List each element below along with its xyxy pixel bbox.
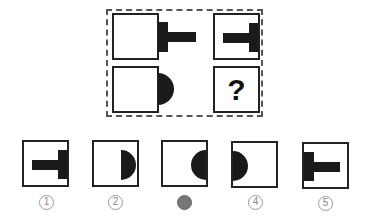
option-1-label[interactable]: 1 bbox=[39, 195, 54, 210]
t-bar-horizontal-shape bbox=[314, 162, 340, 172]
semicircle-shape bbox=[189, 150, 206, 180]
option-5-label[interactable]: 5 bbox=[318, 196, 333, 211]
option-2-label[interactable]: 2 bbox=[108, 195, 123, 210]
t-bar-vertical-shape bbox=[158, 22, 168, 52]
t-bar-horizontal-shape bbox=[32, 160, 58, 170]
option-2-figure[interactable] bbox=[92, 140, 139, 187]
question-mark: ? bbox=[215, 73, 258, 107]
option-3-figure[interactable] bbox=[161, 140, 208, 187]
half-circle-shape bbox=[158, 73, 174, 105]
option-4-figure[interactable] bbox=[231, 141, 278, 188]
t-bar-vertical-shape bbox=[58, 150, 67, 179]
puzzle-cell-top-left bbox=[112, 13, 159, 60]
half-circle-shape bbox=[121, 150, 137, 180]
puzzle-cell-bottom-left bbox=[112, 66, 159, 113]
option-5-figure[interactable] bbox=[302, 142, 349, 189]
puzzle-cell-top-right bbox=[213, 13, 260, 60]
puzzle-cell-question: ? bbox=[213, 66, 260, 113]
option-3-label[interactable]: 3 bbox=[177, 195, 192, 210]
option-4-label[interactable]: 4 bbox=[248, 195, 263, 210]
t-bar-horizontal-shape bbox=[223, 33, 249, 43]
option-1-figure[interactable] bbox=[22, 140, 69, 187]
half-circle-shape bbox=[233, 151, 249, 181]
t-bar-vertical-shape bbox=[304, 152, 314, 181]
t-bar-vertical-shape bbox=[249, 23, 258, 52]
t-bar-horizontal-shape bbox=[168, 32, 196, 42]
